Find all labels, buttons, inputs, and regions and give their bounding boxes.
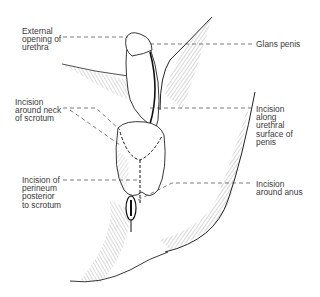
label-external-opening-urethra: External opening of urethra bbox=[22, 27, 61, 52]
label-incision-perineum: Incision of perineum posterior to scrotu… bbox=[22, 176, 61, 209]
leader-neck-scrotum-2 bbox=[70, 110, 120, 145]
lower-left-shading bbox=[80, 200, 130, 283]
label-incision-neck-scrotum: Incision around neck of scrotum bbox=[15, 98, 61, 123]
right-buttock-shading bbox=[160, 100, 250, 250]
right-thigh-shading bbox=[165, 17, 212, 110]
label-incision-around-anus: Incision around anus bbox=[256, 180, 303, 196]
right-buttock-edge bbox=[165, 92, 255, 252]
label-glans-penis: Glans penis bbox=[256, 40, 300, 48]
label-incision-urethral-surface: Incision along urethral surface of penis bbox=[256, 105, 293, 146]
